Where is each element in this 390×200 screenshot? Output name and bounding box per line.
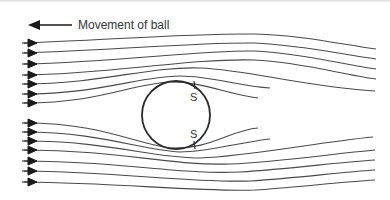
streamline <box>24 60 376 79</box>
arrow-right-icon <box>22 119 37 127</box>
separation-point-upper-label: S <box>190 91 197 103</box>
arrow-right-icon <box>22 146 37 154</box>
arrow-right-icon <box>22 137 37 145</box>
separation-point-lower-label: S <box>190 128 197 140</box>
upper-streamlines <box>24 34 376 103</box>
arrow-right-icon <box>22 49 37 57</box>
arrow-right-icon <box>22 99 37 107</box>
arrow-right-icon <box>22 60 37 68</box>
streamline <box>24 43 376 59</box>
streamline <box>24 160 375 172</box>
arrow-right-icon <box>22 178 37 186</box>
separation-tick-lower <box>194 141 195 149</box>
streamline-diagram: S S <box>0 0 390 200</box>
arrow-right-icon <box>22 157 37 165</box>
arrow-right-icon <box>22 80 37 88</box>
streamline <box>24 51 376 69</box>
ball <box>142 81 210 149</box>
streamline <box>24 180 375 190</box>
streamline <box>24 68 375 91</box>
lower-streamlines <box>24 123 375 190</box>
streamline <box>24 123 258 148</box>
arrow-right-icon <box>22 71 37 79</box>
arrow-right-icon <box>22 39 37 47</box>
flow-arrow-icons <box>22 39 37 186</box>
arrow-right-icon <box>22 90 37 98</box>
arrow-right-icon <box>22 167 37 175</box>
streamline <box>24 34 376 49</box>
separation-tick-upper <box>194 81 195 89</box>
arrow-right-icon <box>22 128 37 136</box>
